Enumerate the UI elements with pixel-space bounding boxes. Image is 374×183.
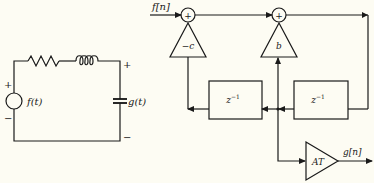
output-label: g(t) (128, 96, 146, 107)
output-plus: + (123, 59, 131, 70)
delay-block-1: z−1 (209, 81, 262, 119)
output-minus: − (123, 132, 131, 143)
input-label: f[n] (151, 1, 170, 12)
gain-feedforward-label: b (276, 41, 282, 51)
gain-output-label: AT (311, 157, 325, 167)
voltage-source-icon (6, 93, 22, 109)
gain-output: AT (306, 142, 338, 180)
svg-text:z−1: z−1 (310, 93, 325, 105)
svg-text:z−1: z−1 (225, 93, 240, 105)
source-minus: − (4, 113, 12, 124)
wire-to-gain-output (278, 109, 305, 161)
adder-1: + (181, 8, 195, 22)
adder-2: + (272, 8, 286, 22)
wire-right-bottom (14, 103, 120, 141)
delay-2-exp: −1 (316, 93, 325, 100)
wire-top-left (14, 61, 28, 93)
delay-block-2: z−1 (294, 81, 348, 119)
source-plus: + (4, 79, 12, 90)
output-label-discrete: g[n] (343, 147, 362, 157)
wire-top-right (104, 61, 120, 99)
inductor-icon (76, 56, 104, 65)
source-label: f(t) (26, 96, 43, 107)
gain-feedforward: b (261, 23, 297, 57)
diagram-canvas: + − f(t) + g(t) − f[n] + + −c (0, 0, 374, 183)
gain-feedback: −c (170, 23, 206, 57)
block-diagram: f[n] + + −c b z−1 (150, 1, 372, 180)
gain-feedback-label: −c (182, 41, 195, 51)
adder-2-symbol: + (275, 11, 283, 21)
capacitor-icon (113, 99, 127, 103)
junction-dot (276, 107, 279, 110)
adder-1-symbol: + (184, 11, 192, 21)
resistor-icon (28, 56, 59, 66)
delay-1-exp: −1 (231, 93, 240, 100)
arrowhead-right (362, 12, 368, 18)
rlc-circuit: + − f(t) + g(t) − (4, 56, 146, 143)
